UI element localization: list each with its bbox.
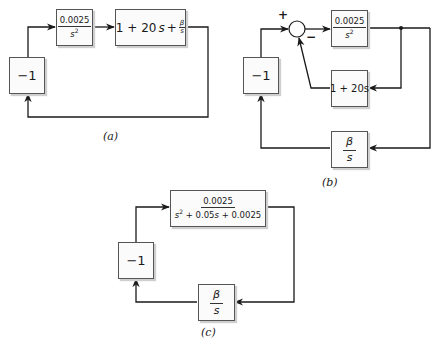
coef: + 0.05 <box>183 210 214 220</box>
summing-junction <box>289 21 305 37</box>
gain-block-a: −1 <box>9 57 45 94</box>
gain-block-c: −1 <box>118 242 154 279</box>
integral-block-b: β s <box>331 131 368 168</box>
minus-label: − <box>306 30 316 44</box>
caption-b: (b) <box>322 176 338 189</box>
s-var: s <box>180 28 184 35</box>
plant-numerator: 0.0025 <box>58 16 92 27</box>
branch-point <box>399 26 403 30</box>
s-var: s <box>347 151 353 164</box>
caption-a: (a) <box>103 130 118 143</box>
controller-term: 1 + 20 <box>116 21 157 35</box>
plant-block-a: 0.0025 s2 <box>56 9 93 46</box>
feedback-block-b: 1 + 20s <box>331 70 368 107</box>
beta: β <box>210 289 223 304</box>
plant-block-b: 0.0025 s2 <box>331 10 368 47</box>
beta-over-s: βs <box>179 20 185 35</box>
controller-block-a: 1 + 20s + βs <box>115 9 186 46</box>
beta: β <box>343 136 356 151</box>
constant: + 0.0025 <box>219 210 261 220</box>
caption-c: (c) <box>201 326 216 339</box>
plant-denominator: s2 <box>345 28 353 40</box>
s-var: s <box>158 21 164 35</box>
s-var: s <box>214 304 220 317</box>
exponent: 2 <box>350 28 354 35</box>
plus-label: + <box>278 8 288 22</box>
exponent: 2 <box>75 27 79 34</box>
plus-sign: + <box>167 21 177 35</box>
plant-numerator: 0.0025 <box>333 17 367 28</box>
gain-block-b: −1 <box>243 57 279 94</box>
closed-loop-denominator: s2 + 0.05s + 0.0025 <box>175 208 261 220</box>
plant-denominator: s2 <box>70 27 78 39</box>
closed-loop-numerator: 0.0025 <box>201 197 235 208</box>
integral-block-c: β s <box>198 284 235 321</box>
closed-loop-block-c: 0.0025 s2 + 0.05s + 0.0025 <box>170 190 266 227</box>
